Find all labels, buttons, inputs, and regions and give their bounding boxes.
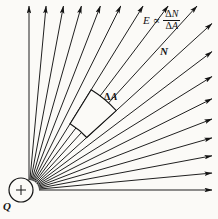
diagram-canvas bbox=[0, 0, 218, 219]
field-strength-formula: E ∝ ΔN ΔA bbox=[143, 9, 180, 32]
formula-denominator-var: A bbox=[172, 20, 178, 31]
field-line bbox=[38, 119, 212, 186]
field-line-group bbox=[29, 6, 212, 190]
field-line bbox=[39, 173, 212, 189]
charge-label: Q bbox=[3, 201, 11, 212]
field-lines-count-label: N bbox=[160, 46, 168, 57]
delta-area: Δ bbox=[104, 91, 111, 102]
area-element-label: ΔA bbox=[104, 92, 118, 102]
area-var: A bbox=[111, 91, 118, 102]
field-line bbox=[38, 99, 212, 186]
formula-numerator-var: N bbox=[172, 8, 179, 19]
electric-field-diagram: E ∝ ΔN ΔA N ΔA Q bbox=[0, 0, 218, 219]
formula-E: E bbox=[143, 15, 150, 26]
formula-fraction: ΔN ΔA bbox=[163, 9, 180, 32]
field-line bbox=[30, 6, 46, 180]
proportional-to-icon: ∝ bbox=[152, 15, 161, 26]
field-line bbox=[38, 77, 213, 185]
formula-denominator: ΔA bbox=[163, 21, 180, 32]
